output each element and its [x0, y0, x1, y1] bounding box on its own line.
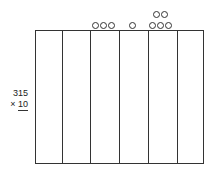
- column-divider: [119, 30, 120, 164]
- column-divider: [148, 30, 149, 164]
- multiplicand: 315: [4, 88, 28, 99]
- multiplier: 10: [18, 99, 28, 111]
- place-value-disc: [108, 22, 115, 29]
- place-value-disc: [161, 11, 168, 18]
- place-value-disc: [129, 22, 136, 29]
- multiplication-problem: 315 × 10: [4, 88, 28, 111]
- place-value-disc: [92, 22, 99, 29]
- column-divider: [90, 30, 91, 164]
- column-divider: [177, 30, 178, 164]
- place-value-disc: [165, 22, 172, 29]
- place-value-disc: [100, 22, 107, 29]
- place-value-disc: [149, 22, 156, 29]
- operator: ×: [10, 99, 15, 109]
- place-value-disc: [153, 11, 160, 18]
- place-value-disc: [157, 22, 164, 29]
- column-divider: [62, 30, 63, 164]
